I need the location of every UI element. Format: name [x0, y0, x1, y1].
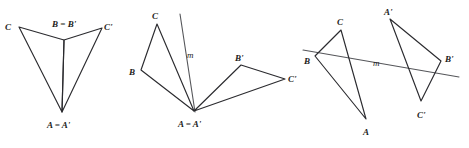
- geometry-drawing: C B = B' C' A = A' C B m B' C' A = A' C …: [0, 0, 469, 148]
- figure-1-label-b-equals-b-prime: B = B': [51, 19, 77, 29]
- figure-2-label-a-equals-a-prime: A = A': [177, 119, 202, 129]
- figure-3-label-m: m: [373, 58, 380, 68]
- figure-2-label-c: C: [152, 11, 159, 21]
- figure-3-triangle-preimage: [315, 30, 366, 119]
- figure-2-mirror-line-m: [180, 14, 195, 112]
- figure-2-label-b: B: [128, 67, 135, 77]
- figure-3-label-a-prime: A': [383, 7, 393, 17]
- figure-2-group: C B m B' C' A = A': [128, 11, 297, 129]
- figure-2-label-m: m: [187, 50, 194, 60]
- figure-3-group: C B m A A' B' C': [303, 7, 459, 137]
- figure-3-label-b-prime: B': [444, 54, 454, 64]
- figure-1-group: C B = B' C' A = A': [5, 19, 113, 130]
- figures-canvas: C B = B' C' A = A' C B m B' C' A = A' C …: [0, 0, 469, 148]
- figure-3-label-a: A: [362, 127, 369, 137]
- figure-2-label-b-prime: B': [234, 53, 244, 63]
- figure-2-label-c-prime: C': [288, 74, 297, 84]
- figure-1-triangle-image: [62, 28, 102, 112]
- figure-1-label-c: C: [5, 22, 12, 32]
- figure-1-triangle-preimage: [19, 27, 64, 112]
- figure-2-triangle-image: [194, 65, 285, 111]
- figure-3-label-c: C: [337, 17, 344, 27]
- figure-1-label-c-prime: C': [104, 22, 113, 32]
- figure-1-label-a-equals-a-prime: A = A': [46, 120, 71, 130]
- figure-2-triangle-preimage: [141, 24, 194, 111]
- figure-3-label-c-prime: C': [417, 110, 426, 120]
- figure-3-triangle-image: [390, 19, 441, 101]
- figure-3-label-b: B: [303, 56, 310, 66]
